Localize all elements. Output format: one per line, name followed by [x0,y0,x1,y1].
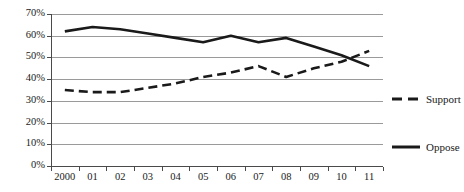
series-line-oppose [65,27,369,66]
legend-swatch-solid [391,140,421,154]
x-axis-tick-mark [162,167,163,171]
x-axis-tick-mark [134,167,135,171]
y-axis-tick-label: 40% [0,73,45,84]
x-axis-tick-mark [189,167,190,171]
x-axis-tick-mark [51,167,52,171]
x-axis-tick-mark [106,167,107,171]
y-axis-tick-label: 0% [0,160,45,171]
legend-entry-support: Support [391,92,461,106]
legend-entry-oppose: Oppose [391,140,460,154]
legend-label: Support [426,94,461,105]
x-axis-tick-mark [217,167,218,171]
y-axis-tick-label: 70% [0,8,45,19]
y-axis-tick-label: 10% [0,138,45,149]
line-chart: 0%10%20%30%40%50%60%70% 2000010203040506… [0,0,464,192]
legend-swatch-dashed [391,92,421,106]
y-axis-tick-label: 30% [0,95,45,106]
series-line-support [65,51,369,92]
x-axis-tick-mark [355,167,356,171]
x-axis-tick-mark [383,167,384,171]
x-axis-tick-mark [300,167,301,171]
x-axis-tick-mark [79,167,80,171]
chart-legend: SupportOppose [391,0,464,192]
y-axis-tick-label: 50% [0,51,45,62]
x-axis-tick-mark [245,167,246,171]
x-axis-tick-mark [328,167,329,171]
x-axis-tick-label: 11 [349,172,389,183]
data-series-group [51,14,383,166]
y-axis-tick-label: 60% [0,30,45,41]
x-axis-tick-mark [272,167,273,171]
y-axis-tick-label: 20% [0,117,45,128]
legend-label: Oppose [426,142,460,153]
